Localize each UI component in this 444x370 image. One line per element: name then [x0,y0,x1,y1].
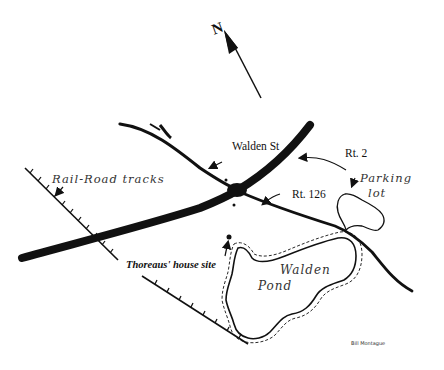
parking-lot-label-line1: Parking [359,171,412,185]
walden-pond-label-line2: Pond [257,279,292,293]
walden-st-label: Walden St [232,140,280,152]
railroad-label: Rail-Road tracks [51,172,165,186]
railroad-tracks [25,168,248,344]
rt2-label: Rt. 2 [345,147,368,159]
walden-pond-map: N [0,0,444,370]
walden-pond-label-line1: Walden [280,263,331,277]
north-arrow-icon [224,30,261,98]
rt126-label: Rt. 126 [292,188,326,200]
thoreau-house-label: Thoreaus' house site [126,259,216,270]
artist-signature: Bill Montague [351,340,385,347]
parking-lot-label-line2: lot [368,186,386,200]
north-label: N [210,19,226,38]
house-site-marker [227,235,232,240]
